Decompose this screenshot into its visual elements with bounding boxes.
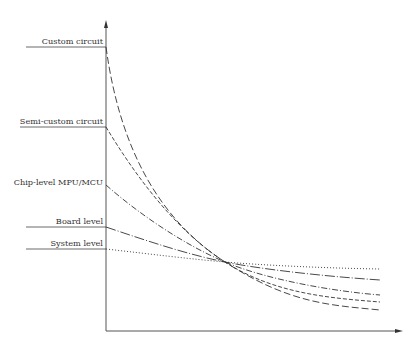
axes — [104, 20, 403, 333]
label-semi-custom-circuit: Semi-custom circuit — [20, 116, 104, 126]
curves — [106, 47, 380, 310]
label-system-level: System level — [51, 238, 104, 248]
curve-custom-circuit — [106, 47, 380, 310]
curve-board-level — [106, 227, 380, 280]
label-chip-level: Chip-level MPU/MCU — [14, 177, 103, 187]
level-curve-diagram: Custom circuit Semi-custom circuit Chip-… — [0, 0, 408, 351]
y-axis-arrow-icon — [104, 20, 108, 28]
label-custom-circuit: Custom circuit — [42, 36, 104, 46]
curve-chip-level — [106, 185, 380, 295]
label-board-level: Board level — [56, 216, 104, 226]
x-axis-arrow-icon — [395, 329, 403, 333]
curve-system-level — [106, 249, 380, 269]
level-labels: Custom circuit Semi-custom circuit Chip-… — [14, 36, 106, 249]
curve-semi-custom-circuit — [106, 127, 380, 302]
